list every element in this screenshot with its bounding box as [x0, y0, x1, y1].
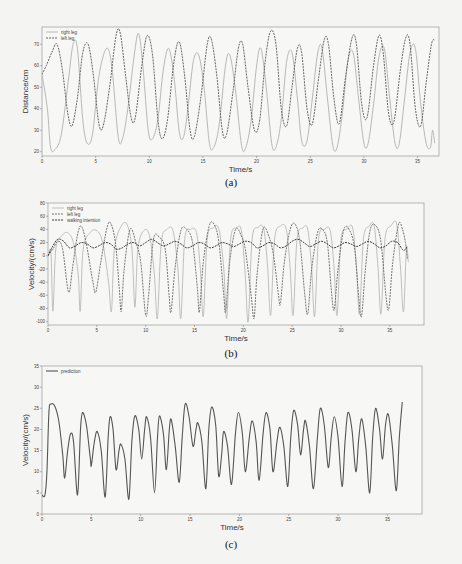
legend-label: prediction	[61, 369, 81, 374]
caption-c: (c)	[0, 538, 462, 550]
y-tick-label: 25	[34, 406, 40, 411]
y-tick-label: 10	[34, 469, 40, 474]
y-tick-label: 5	[36, 490, 39, 495]
y-tick-label: 20	[34, 427, 40, 432]
x-tick-label: 15	[188, 517, 194, 522]
x-tick-label: 35	[385, 517, 391, 522]
x-tick-label: 25	[286, 517, 292, 522]
x-tick-label: 0	[41, 517, 44, 522]
x-tick-label: 5	[90, 517, 93, 522]
x-tick-label: 30	[336, 517, 342, 522]
chart-c-prediction: 0510152025303505101520253035Time/sVeloci…	[0, 0, 462, 564]
y-tick-label: 0	[36, 512, 39, 517]
y-tick-label: 30	[34, 385, 40, 390]
figure-c: 0510152025303505101520253035Time/sVeloci…	[0, 0, 462, 564]
x-axis-label: Time/s	[220, 523, 244, 532]
y-tick-label: 35	[34, 364, 40, 369]
x-tick-label: 20	[237, 517, 243, 522]
x-tick-label: 10	[138, 517, 144, 522]
y-tick-label: 15	[34, 448, 40, 453]
y-axis-label: Velocity/(cm/s)	[21, 414, 30, 466]
